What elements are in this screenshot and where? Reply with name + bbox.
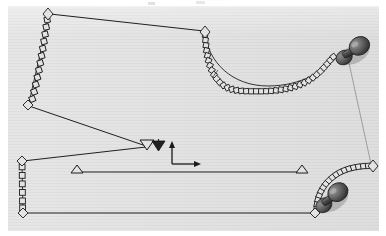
chain-upper-right — [202, 32, 338, 94]
line-segments — [23, 14, 371, 213]
line-left-diagonal — [29, 106, 146, 146]
support-right-triangle — [296, 165, 308, 173]
line-lower-diagonal — [23, 147, 146, 161]
speck — [148, 2, 155, 5]
axis-vertical-arrowhead — [169, 141, 175, 148]
support-left-triangle — [71, 165, 83, 173]
chain-upper-left-links — [29, 17, 51, 103]
figure-container — [0, 0, 386, 236]
coordinate-axes-indicator — [169, 141, 201, 167]
chain-upper-left — [29, 16, 51, 103]
line-top-span — [50, 14, 204, 31]
node-right-lower — [368, 160, 378, 172]
scan-noise — [8, 1, 379, 7]
node-left-lower — [17, 156, 27, 166]
anchor-upper-right — [331, 33, 375, 71]
fairlead-markers — [140, 139, 165, 151]
speck — [8, 6, 379, 7]
chain-upper-right-links — [202, 32, 337, 94]
chain-lower-left — [19, 163, 25, 211]
speck — [196, 1, 205, 4]
line-right-riser — [349, 63, 371, 164]
diagram-artwork — [0, 0, 386, 236]
node-upper-mid — [200, 26, 210, 38]
chain-upper-right-path — [205, 33, 338, 86]
axis-horizontal-arrowhead — [194, 161, 201, 167]
